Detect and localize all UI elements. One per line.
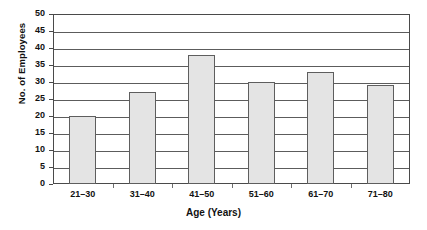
y-tick-mark xyxy=(49,167,53,168)
y-tick-label: 0 xyxy=(5,179,45,188)
y-tick-label: 5 xyxy=(5,162,45,171)
y-tick-mark xyxy=(49,116,53,117)
y-tick-label: 40 xyxy=(5,43,45,52)
y-tick-mark xyxy=(49,14,53,15)
bar-chart: No. of Employees 05101520253035404550 21… xyxy=(0,0,427,230)
bar xyxy=(307,72,334,184)
y-tick-mark xyxy=(49,48,53,49)
x-tick-mark xyxy=(232,184,233,188)
y-tick-label: 35 xyxy=(5,60,45,69)
y-tick-label: 30 xyxy=(5,77,45,86)
x-tick-mark xyxy=(113,184,114,188)
y-tick-label: 25 xyxy=(5,94,45,103)
x-tick-label: 71–80 xyxy=(345,190,415,199)
y-tick-mark xyxy=(49,133,53,134)
bar xyxy=(248,82,275,184)
y-tick-label: 45 xyxy=(5,26,45,35)
x-tick-mark xyxy=(172,184,173,188)
y-tick-mark xyxy=(49,184,53,185)
y-tick-mark xyxy=(49,31,53,32)
y-tick-label: 10 xyxy=(5,145,45,154)
x-tick-mark xyxy=(351,184,352,188)
x-axis-title: Age (Years) xyxy=(0,207,427,218)
bar xyxy=(129,92,156,184)
y-tick-mark xyxy=(49,150,53,151)
bar xyxy=(188,55,215,184)
y-tick-mark xyxy=(49,99,53,100)
y-tick-label: 50 xyxy=(5,9,45,18)
x-tick-mark xyxy=(291,184,292,188)
y-tick-label: 20 xyxy=(5,111,45,120)
bar-series xyxy=(53,14,410,184)
y-tick-mark xyxy=(49,65,53,66)
bar xyxy=(367,85,394,184)
bar xyxy=(69,116,96,184)
y-tick-mark xyxy=(49,82,53,83)
y-tick-label: 15 xyxy=(5,128,45,137)
